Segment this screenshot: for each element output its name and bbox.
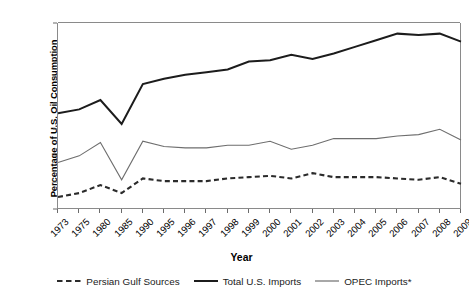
series-line (58, 173, 461, 197)
chart-figure: Percentage of U.S. Oil Consumption 01020… (0, 0, 469, 304)
x-tick-mark (163, 209, 164, 213)
x-tick-mark (439, 209, 440, 213)
x-tick-mark (269, 209, 270, 213)
x-tick-mark (184, 209, 185, 213)
x-tick-mark (460, 209, 461, 213)
plot-area (57, 23, 461, 209)
legend-label: Persian Gulf Sources (86, 276, 179, 287)
x-tick-mark (333, 209, 334, 213)
series-lines (58, 23, 462, 209)
x-tick-mark (121, 209, 122, 213)
legend-item[interactable]: Persian Gulf Sources (57, 276, 179, 287)
x-tick-mark (142, 209, 143, 213)
legend-label: Total U.S. Imports (223, 276, 301, 287)
legend-item[interactable]: Total U.S. Imports (194, 276, 301, 287)
x-tick-mark (375, 209, 376, 213)
x-tick-mark (227, 209, 228, 213)
x-axis-title: Year (0, 252, 469, 263)
solid-line-icon (194, 276, 218, 287)
dashed-line-icon (57, 276, 81, 287)
solid-line-icon (315, 276, 339, 287)
x-tick-mark (290, 209, 291, 213)
x-tick-mark (312, 209, 313, 213)
series-line (58, 129, 461, 179)
x-tick-mark (99, 209, 100, 213)
legend-label: OPEC Imports* (344, 276, 412, 287)
series-line (58, 34, 461, 124)
legend-item[interactable]: OPEC Imports* (315, 276, 412, 287)
x-tick-mark (418, 209, 419, 213)
x-tick-mark (396, 209, 397, 213)
x-tick-mark (205, 209, 206, 213)
x-tick-mark (248, 209, 249, 213)
x-tick-mark (57, 209, 58, 213)
chart-legend: Persian Gulf SourcesTotal U.S. ImportsOP… (0, 276, 469, 287)
x-tick-mark (354, 209, 355, 213)
x-tick-mark (78, 209, 79, 213)
